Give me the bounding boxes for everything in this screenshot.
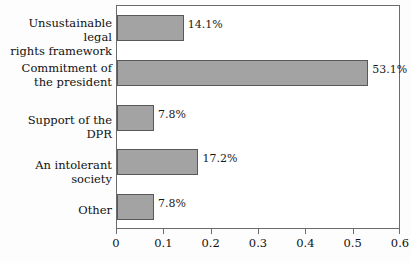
x-tick-label-5: 0.5: [344, 236, 362, 250]
bar-4: [117, 194, 154, 220]
bar-0: [117, 15, 184, 41]
bar-chart: Unsustainable legal rights framework Com…: [0, 0, 411, 263]
bar-row: 7.8%: [117, 96, 399, 141]
x-axis: 00.10.20.30.40.50.6: [116, 229, 400, 263]
x-tick-label-0: 0: [112, 236, 119, 250]
bar-1: [117, 60, 368, 86]
category-label-1: Commitment of the president: [0, 61, 112, 89]
x-tick-mark-2: [211, 229, 212, 234]
category-label-0: Unsustainable legal rights framework: [0, 16, 112, 58]
bar-row: 53.1%: [117, 51, 399, 96]
x-tick-label-6: 0.6: [391, 236, 409, 250]
bar-value-4: 7.8%: [158, 197, 186, 210]
bar-row: 7.8%: [117, 185, 399, 230]
x-tick-mark-0: [116, 229, 117, 234]
bar-value-0: 14.1%: [188, 18, 223, 31]
plot-area: 14.1% 53.1% 7.8% 17.2% 7.8%: [116, 5, 400, 229]
x-tick-mark-5: [353, 229, 354, 234]
x-tick-label-1: 0.1: [154, 236, 172, 250]
x-tick-label-2: 0.2: [202, 236, 220, 250]
x-tick-label-4: 0.4: [296, 236, 314, 250]
bar-row: 17.2%: [117, 140, 399, 185]
category-label-4: Other: [0, 203, 112, 217]
bar-2: [117, 105, 154, 131]
bar-value-2: 7.8%: [158, 108, 186, 121]
x-tick-mark-3: [258, 229, 259, 234]
x-tick-mark-6: [399, 229, 400, 234]
category-label-2: Support of the DPR: [0, 113, 112, 141]
bar-value-3: 17.2%: [202, 152, 237, 165]
category-axis-labels: Unsustainable legal rights framework Com…: [0, 5, 112, 229]
bar-value-1: 53.1%: [372, 63, 407, 76]
bar-3: [117, 149, 198, 175]
x-tick-label-3: 0.3: [249, 236, 267, 250]
x-tick-mark-4: [305, 229, 306, 234]
bar-row: 14.1%: [117, 6, 399, 51]
category-label-3: An intolerant society: [0, 158, 112, 186]
x-tick-mark-1: [163, 229, 164, 234]
